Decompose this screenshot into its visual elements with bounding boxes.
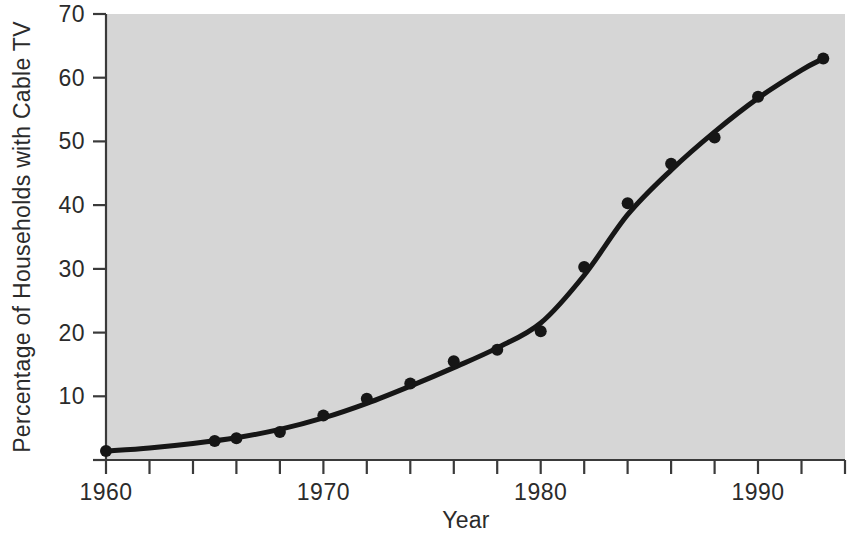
y-tick-label-60: 60 xyxy=(58,65,85,91)
plot-area-background xyxy=(106,14,845,460)
data-point xyxy=(752,91,764,103)
data-point xyxy=(100,445,112,457)
data-point xyxy=(404,378,416,390)
chart-figure: 10 20 30 40 50 60 70 Percentage of House… xyxy=(0,0,856,536)
data-point xyxy=(209,435,221,447)
data-point xyxy=(622,197,634,209)
x-axis-title: Year xyxy=(442,507,490,533)
x-tick-label-1990: 1990 xyxy=(731,479,784,505)
data-point xyxy=(230,432,242,444)
data-point xyxy=(491,344,503,356)
data-point xyxy=(709,132,721,144)
data-point xyxy=(274,426,286,438)
data-point xyxy=(361,393,373,405)
x-tick-label-1970: 1970 xyxy=(297,479,350,505)
cable-tv-adoption-chart: 10 20 30 40 50 60 70 Percentage of House… xyxy=(0,0,856,536)
data-point xyxy=(317,409,329,421)
y-axis-title: Percentage of Households with Cable TV xyxy=(9,21,35,453)
y-tick-label-70: 70 xyxy=(58,1,85,27)
data-point xyxy=(665,158,677,170)
y-tick-label-10: 10 xyxy=(58,383,85,409)
x-tick-label-1960: 1960 xyxy=(79,479,132,505)
y-tick-label-20: 20 xyxy=(58,320,85,346)
x-tick-label-1980: 1980 xyxy=(514,479,567,505)
y-tick-label-40: 40 xyxy=(58,192,85,218)
data-point xyxy=(448,355,460,367)
data-point xyxy=(817,53,829,65)
data-point xyxy=(535,325,547,337)
y-tick-label-30: 30 xyxy=(58,256,85,282)
data-point xyxy=(578,261,590,273)
y-tick-label-50: 50 xyxy=(58,128,85,154)
